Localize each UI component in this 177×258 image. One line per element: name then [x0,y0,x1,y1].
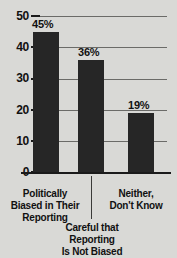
ytick-label-10: 10 [0,135,29,147]
ytick-label-30: 30 [0,72,29,84]
category-label-politically-biased: Politically Biased in Their Reporting [3,188,87,224]
callout-leader-line [91,176,92,219]
bar-value-label-2: 36% [78,47,99,58]
ytick-label-50: 50 [0,10,29,22]
bar-chart: 50 40 30 20 10 0 45% 36% 19% Politically… [0,0,177,258]
category-label-neither-dont-know: Neither, Don't Know [96,188,176,212]
category-label-2-line1: Careful that [48,222,136,234]
bar-neither-dont-know [128,113,154,173]
gridline-50 [31,16,167,17]
category-label-2-line2: Reporting [48,234,136,246]
category-label-3-line2: Don't Know [96,200,176,212]
ytick-dash-50 [31,15,40,17]
ytick-label-20: 20 [0,104,29,116]
x-axis-baseline [21,172,171,174]
bar-politically-biased [33,32,59,173]
category-label-1-line2: Biased in Their [3,200,87,212]
category-label-careful-not-biased: Careful that Reporting Is Not Biased [48,222,136,258]
bar-careful-not-biased [78,60,104,173]
category-label-1-line1: Politically [3,188,87,200]
ytick-label-40: 40 [0,41,29,53]
category-label-2-line3: Is Not Biased [48,246,136,258]
bar-value-label-1: 45% [32,19,53,30]
category-label-3-line1: Neither, [96,188,176,200]
bar-value-label-3: 19% [128,100,149,111]
plot-area: 50 40 30 20 10 0 45% 36% 19% [0,0,177,178]
